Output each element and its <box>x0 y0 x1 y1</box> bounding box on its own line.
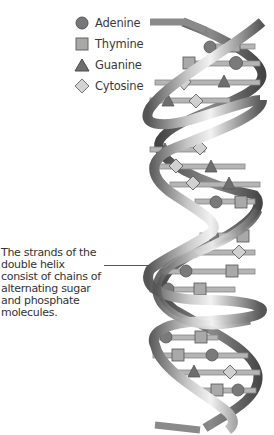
dna-helix <box>0 0 274 435</box>
